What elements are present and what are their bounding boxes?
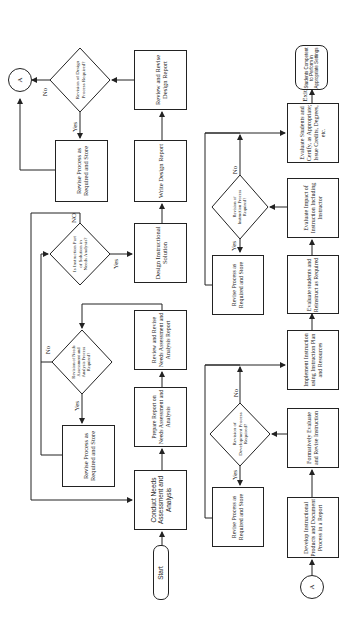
conduct-needs-box: Conduct Needs Assessment and Analysis	[134, 470, 187, 530]
decision-instruction-part: Is Instruction Part of Solution in Needs…	[72, 234, 89, 274]
label-no-development: No	[232, 389, 240, 398]
formatively-evaluate-box: Formatively Evaluate and Revise Instruct…	[287, 408, 339, 468]
write-design-text: Write Design Report	[157, 143, 164, 199]
label-yes-design: Yes	[71, 122, 79, 132]
evaluate-impact-text: Evaluate Impact of Instruction Including…	[303, 179, 324, 237]
decision-needs-revision: Revision of Needs Assessment and Analysi…	[72, 340, 92, 384]
implement-instruction-box: Implement Instruction using Instruction …	[287, 330, 339, 390]
end-terminal: Students Competent to Perform in Appropr…	[295, 45, 328, 90]
evaluate-reinstruct-box: Evaluate students and Reinstruct as Requ…	[287, 255, 339, 314]
evaluate-impact-box: Evaluate Impact of Instruction Including…	[287, 178, 339, 238]
label-no-design: No	[41, 88, 49, 97]
review-needs-text: Review and Revise Needs Assessment and A…	[150, 311, 171, 369]
label-yes-instruction: Yes	[230, 241, 238, 251]
label-yes-development: Yes	[231, 470, 239, 480]
review-design-box: Review and Revise Design Report	[134, 50, 187, 110]
decision-instruction-revision: Revision of Instruction Process Required…	[233, 187, 248, 227]
connector-a-label: A	[16, 77, 24, 82]
evaluate-certify-text: Evaluate Students and Certify, as Approp…	[299, 104, 327, 162]
develop-products-box: Develop Instructional Products and Docum…	[287, 497, 339, 558]
evaluate-reinstruct-text: Evaluate students and Reinstruct as Requ…	[306, 256, 320, 314]
revise-needs-box: Revise Process as Required and Store	[62, 425, 115, 487]
evaluate-certify-box: Evaluate Students and Certify, as Approp…	[287, 103, 339, 163]
formatively-evaluate-text: Formatively Evaluate and Revise Instruct…	[306, 409, 320, 467]
conduct-needs-text: Conduct Needs Assessment and Analysis	[149, 472, 171, 528]
write-design-box: Write Design Report	[134, 140, 187, 202]
revise-instruction-box: Revise Process as Required and Store	[212, 255, 264, 315]
connector-a-bottom: A	[300, 575, 324, 599]
implement-instruction-text: Implement Instruction using Instruction …	[303, 330, 324, 390]
decision-development-revision: Revision of Development Process Required…	[232, 412, 249, 456]
review-needs-box: Review and Revise Needs Assessment and A…	[134, 310, 187, 370]
prepare-report-text: Prepare Report on Needs Assessment and A…	[150, 388, 171, 446]
revise-development-text: Revise Process as Required and Store	[231, 489, 245, 545]
label-no-needs: No	[44, 346, 52, 355]
decision-design-revision: Revision of Design Process Required?	[75, 60, 86, 100]
prepare-report-box: Prepare Report on Needs Assessment and A…	[134, 387, 187, 447]
label-yes-needs: Yes	[73, 401, 81, 411]
design-solution-box: Design Instructional Solution	[134, 223, 187, 283]
review-design-text: Review and Revise Design Report	[153, 52, 168, 108]
connector-a-bottom-label: A	[308, 584, 316, 589]
label-exit: Exit	[301, 90, 309, 102]
revise-design-text: Revise Process as Required and Store	[74, 143, 89, 199]
revise-design-box: Revise Process as Required and Store	[55, 140, 108, 202]
label-yes-instruction-part: Yes	[112, 259, 120, 269]
label-no-instruction: No	[231, 166, 239, 175]
start-text: Start	[157, 566, 164, 580]
revise-instruction-text: Revise Process as Required and Store	[231, 257, 245, 313]
end-text: Students Competent to Perform in Appropr…	[304, 47, 320, 89]
start-terminal: Start	[153, 545, 169, 600]
label-no-instruction-part: NO	[70, 213, 78, 223]
design-solution-text: Design Instructional Solution	[153, 225, 168, 281]
revise-needs-text: Revise Process as Required and Store	[81, 428, 96, 484]
develop-products-text: Develop Instructional Products and Docum…	[303, 498, 324, 558]
connector-a-top: A	[8, 68, 32, 92]
revise-development-box: Revise Process as Required and Store	[212, 487, 264, 547]
